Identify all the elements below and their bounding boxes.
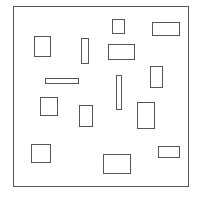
rectangle-i	[40, 97, 58, 116]
rectangle-e	[152, 22, 180, 36]
rectangle-d	[112, 19, 125, 34]
rectangle-l	[137, 102, 155, 129]
rectangle-b	[81, 38, 89, 64]
rectangle-n	[158, 146, 180, 158]
rectangle-a	[34, 36, 51, 57]
rectangle-c	[45, 78, 79, 84]
rectangle-g	[150, 66, 163, 88]
rectangle-k	[31, 144, 51, 163]
rectangle-m	[103, 154, 131, 174]
rectangle-h	[116, 75, 122, 110]
rectangle-j	[79, 105, 93, 127]
rectangle-f	[108, 44, 135, 60]
